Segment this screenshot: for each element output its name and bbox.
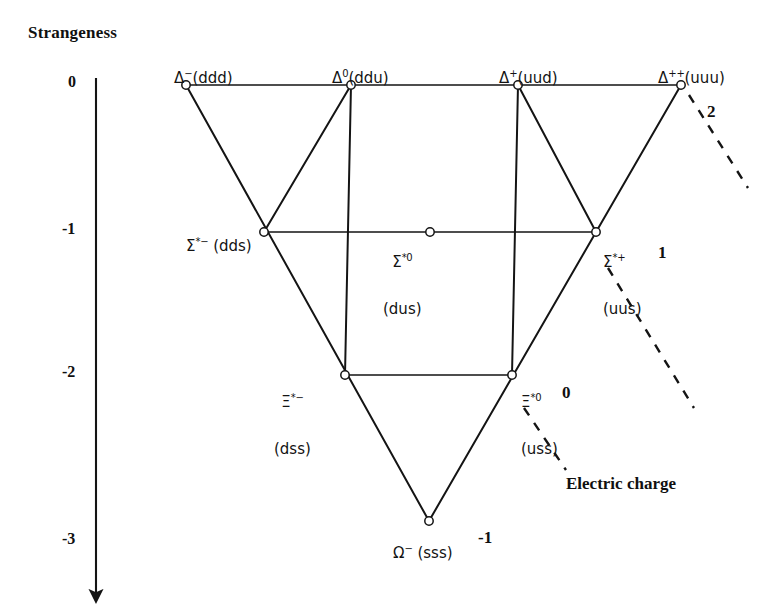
particle-label-line1: Σ*0 xyxy=(383,253,422,271)
vertex-sigma-star-zero xyxy=(426,228,434,236)
particle-quarks: (uud) xyxy=(517,69,557,87)
particle-label-xi-star-zero: Ξ*0 (uss) xyxy=(521,361,558,489)
particle-symbol: Δ xyxy=(174,69,184,87)
axis-tick-minus1: -1 xyxy=(62,221,75,238)
electric-charge-axis-title: Electric charge xyxy=(566,475,676,493)
particle-label-sigma-star-minus: Σ*− (dds) xyxy=(167,221,252,270)
particle-symbol: Ξ xyxy=(281,393,290,411)
vertex-xi-star-zero xyxy=(508,371,516,379)
particle-label-delta-plus: Δ+(uud) xyxy=(480,53,558,102)
particle-superscript: − xyxy=(405,543,413,554)
particle-superscript: ++ xyxy=(668,68,684,79)
edge-sigma-star-minus-to-delta-zero xyxy=(264,85,351,232)
particle-label-line2: (uss) xyxy=(521,442,558,458)
particle-superscript: *− xyxy=(196,236,209,247)
particle-superscript: *0 xyxy=(402,252,413,263)
particle-superscript: *− xyxy=(291,392,304,403)
particle-label-line2: (dus) xyxy=(383,302,422,318)
edge-sigma-star-plus-to-delta-plus xyxy=(518,85,596,232)
particle-symbol: Σ xyxy=(392,253,401,271)
figure-canvas: Strangeness 0 -1 -2 -3 Δ−(ddd) Δ0(ddu) Δ… xyxy=(0,0,777,616)
particle-symbol: Σ xyxy=(186,237,195,255)
particle-label-line1: Ξ*− xyxy=(274,393,311,411)
particle-label-line2: (dss) xyxy=(274,442,311,458)
vertex-omega-minus xyxy=(425,517,433,525)
strangeness-axis-title: Strangeness xyxy=(28,24,117,42)
particle-symbol: Δ xyxy=(499,69,509,87)
particle-label-omega-minus: Ω− (sss) xyxy=(374,528,453,577)
charge-label-2: 2 xyxy=(707,103,716,121)
particle-quarks: (ddu) xyxy=(348,69,388,87)
particle-label-line1: Σ*+ xyxy=(603,253,642,271)
vertex-xi-star-minus xyxy=(341,371,349,379)
charge-label-minus1: -1 xyxy=(478,529,492,547)
particle-quarks-text: (dds) xyxy=(213,237,252,255)
edge-delta-zero-to-xi-star-minus xyxy=(345,85,351,375)
particle-superscript: *0 xyxy=(530,392,541,403)
vertex-sigma-star-minus xyxy=(260,228,268,236)
particle-symbol: Δ xyxy=(658,69,668,87)
particle-label-delta-zero: Δ0(ddu) xyxy=(313,53,389,102)
particle-label-delta-minus: Δ−(ddd) xyxy=(155,53,233,102)
particle-label-sigma-star-zero: Σ*0 (dus) xyxy=(383,221,422,349)
particle-label-line2: (uus) xyxy=(603,302,642,318)
particle-symbol: Δ xyxy=(332,69,342,87)
axis-tick-minus3: -3 xyxy=(62,531,75,548)
charge-label-1: 1 xyxy=(658,244,667,262)
particle-label-delta-plusplus: Δ++(uuu) xyxy=(639,53,725,102)
vertex-sigma-star-plus xyxy=(592,228,600,236)
particle-quarks: (uuu) xyxy=(685,69,725,87)
dashed-charge-line-2 xyxy=(689,95,748,188)
particle-label-line1: Ξ*0 xyxy=(521,393,558,411)
particle-quarks: (sss) xyxy=(417,544,452,562)
particle-superscript: *+ xyxy=(612,252,625,263)
particle-label-xi-star-minus: Ξ*− (dss) xyxy=(274,361,311,489)
particle-quarks: (ddd) xyxy=(192,69,232,87)
charge-label-0: 0 xyxy=(562,384,571,402)
particle-symbol: Ω xyxy=(393,544,404,562)
axis-tick-minus2: -2 xyxy=(62,364,75,381)
particle-label-sigma-star-plus: Σ*+ (uus) xyxy=(603,221,642,349)
axis-tick-0: 0 xyxy=(68,74,76,91)
edge-delta-plus-to-xi-star-zero xyxy=(512,85,518,375)
